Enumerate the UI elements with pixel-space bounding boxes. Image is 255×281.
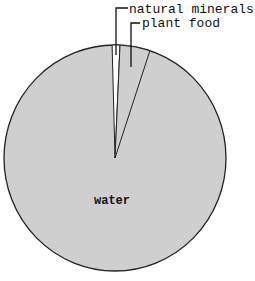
label-water: water — [94, 194, 130, 208]
label-natural-minerals: natural minerals — [129, 2, 254, 17]
pie-chart: natural minerals plant food water — [0, 0, 255, 281]
label-plant-food: plant food — [142, 16, 220, 31]
